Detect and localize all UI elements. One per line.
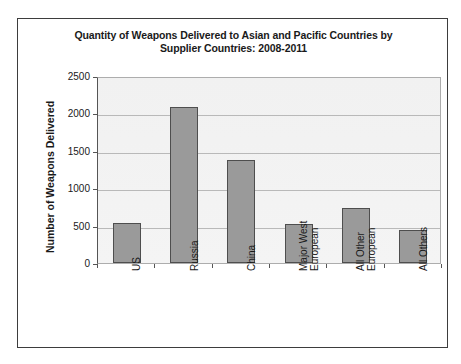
x-tick-label: US xyxy=(131,257,142,271)
y-tick-label: 1000 xyxy=(44,184,90,194)
x-tick-label: All Others xyxy=(418,227,429,271)
bars-layer xyxy=(98,78,440,263)
x-tick-label-line: Major West xyxy=(298,221,309,271)
y-tick-label: 1500 xyxy=(44,147,90,157)
x-tick-label-line: US xyxy=(131,257,142,271)
y-tick-label: 0 xyxy=(44,259,90,269)
plot-area xyxy=(97,77,441,264)
chart-title-line-2: Supplier Countries: 2008-2011 xyxy=(30,42,437,55)
x-tick-mark xyxy=(154,264,155,268)
x-tick-label: Major WestEuropean xyxy=(298,221,320,271)
x-tick-mark xyxy=(212,264,213,268)
chart-title-line-1: Quantity of Weapons Delivered to Asian a… xyxy=(30,29,437,42)
x-tick-label-line: Russia xyxy=(189,240,200,271)
x-tick-mark xyxy=(269,264,270,268)
x-tick-mark xyxy=(97,264,98,268)
x-tick-label-line: European xyxy=(366,228,377,271)
x-tick-mark xyxy=(441,264,442,268)
x-tick-label: Russia xyxy=(189,240,200,271)
chart-title: Quantity of Weapons Delivered to Asian a… xyxy=(30,29,437,55)
x-tick-mark xyxy=(384,264,385,268)
x-tick-label-line: European xyxy=(309,221,320,271)
x-tick-label-line: All Others xyxy=(418,227,429,271)
x-tick-mark xyxy=(326,264,327,268)
x-tick-label: All OtherEuropean xyxy=(355,228,377,271)
y-tick-label: 2000 xyxy=(44,109,90,119)
chart-figure-frame: Quantity of Weapons Delivered to Asian a… xyxy=(17,18,448,348)
x-tick-label-line: All Other xyxy=(355,228,366,271)
y-tick-label: 500 xyxy=(44,222,90,232)
y-tick-label: 2500 xyxy=(44,72,90,82)
x-tick-label-line: China xyxy=(246,245,257,271)
x-tick-label: China xyxy=(246,245,257,271)
